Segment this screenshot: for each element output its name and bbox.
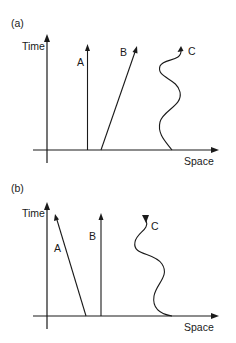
worldline-label-c-a: C (188, 45, 196, 57)
panel-b-label: (b) (11, 182, 24, 194)
arrow-head-icon (99, 213, 104, 220)
worldline-label-a-a: A (77, 56, 84, 68)
panel-b: (b) Time Space A B C (11, 182, 219, 333)
arrow-head-icon (133, 46, 138, 54)
worldline-label-c-b: C (151, 220, 159, 232)
worldline-label-a-b: A (54, 242, 61, 254)
panel-a-label: (a) (11, 17, 24, 29)
space-axis-label-b: Space (184, 321, 214, 333)
arrow-head-icon (142, 215, 149, 223)
time-axis-label-b: Time (22, 207, 45, 219)
arrow-head-icon (178, 46, 184, 52)
worldline-c-b (135, 220, 172, 316)
panel-a: (a) Time Space A B C (11, 17, 219, 167)
space-axis-arrow-icon (211, 313, 219, 319)
arrow-head-icon (54, 214, 59, 221)
space-axis-label-a: Space (184, 155, 214, 167)
worldline-label-b-a: B (120, 46, 127, 58)
worldline-label-b-b: B (89, 230, 96, 242)
worldline-a-b (57, 220, 86, 316)
arrow-head-icon (85, 44, 90, 51)
spacetime-diagram: (a) Time Space A B C (b) Time Space (0, 0, 236, 343)
worldline-b-a (101, 52, 135, 150)
time-axis-label-a: Time (22, 40, 45, 52)
space-axis-arrow-icon (211, 147, 219, 153)
worldline-c-a (159, 50, 181, 150)
